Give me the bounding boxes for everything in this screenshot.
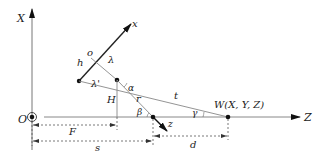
segment-r [117,80,153,117]
origin-dot [30,115,35,120]
label-r: r [136,93,142,104]
arc-alpha [124,83,127,87]
z-axis-label: z [167,119,173,129]
arc-gamma [203,112,204,117]
Z-axis-label: Z [303,111,312,124]
label-h: h [77,57,83,68]
origin-label: O [18,113,27,126]
label-alpha: α [128,83,134,93]
point-W [226,115,231,120]
label-o: o [87,47,93,58]
label-W: W(X, Y, Z) [214,99,264,110]
label-s: s [95,142,100,153]
label-lambda: λ [107,54,114,65]
x-axis-label: x [132,18,138,29]
camera-geometry-diagram: X Z O x o h λ λ' t H r α β z W(X, Y, Z) … [0,0,317,157]
X-axis-label: X [16,12,26,25]
arc-beta [147,113,149,117]
label-d: d [190,139,196,150]
label-t: t [174,90,179,101]
label-lambda-prime: λ' [90,78,100,89]
z-axis-arrow [153,117,167,131]
label-beta: β [136,107,142,117]
label-gamma: γ [192,108,198,118]
segment-lambda-prime-t [79,81,228,117]
label-H: H [106,94,116,105]
label-F: F [68,126,77,137]
